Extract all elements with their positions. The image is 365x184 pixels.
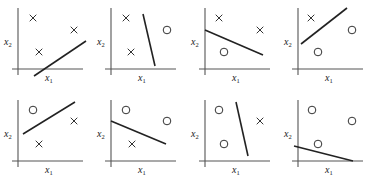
decision-boundary-line	[111, 121, 166, 144]
cross-marker	[308, 15, 315, 22]
panel-4: x1x2	[283, 8, 363, 84]
cross-marker	[257, 27, 264, 34]
x2-label: x2	[96, 128, 105, 140]
x2-label: x2	[96, 36, 105, 48]
circle-marker	[122, 106, 130, 114]
x2-label: x2	[190, 128, 199, 140]
circle-marker	[348, 26, 356, 34]
x2-label: x2	[190, 36, 199, 48]
circle-marker	[308, 106, 316, 114]
x1-label: x1	[44, 164, 53, 176]
circle-marker	[348, 117, 356, 125]
panel-6: x1x2	[96, 100, 176, 176]
circle-marker	[314, 48, 322, 56]
x2-label: x2	[283, 36, 292, 48]
circle-marker	[220, 48, 228, 56]
x1-label: x1	[324, 164, 333, 176]
cross-marker	[257, 118, 264, 125]
circle-marker	[220, 140, 228, 148]
x1-label: x1	[324, 72, 333, 84]
x2-label: x2	[3, 128, 12, 140]
decision-boundary-line	[205, 30, 263, 55]
circle-marker	[314, 140, 322, 148]
panel-1: x1x2	[3, 8, 86, 84]
decision-boundary-line	[34, 41, 86, 76]
x1-label: x1	[231, 164, 240, 176]
decision-boundary-line	[301, 8, 347, 44]
cross-marker	[129, 141, 136, 148]
panel-7: x1x2	[190, 100, 270, 176]
circle-marker	[29, 106, 37, 114]
cross-marker	[71, 118, 78, 125]
panel-3: x1x2	[190, 8, 270, 84]
cross-marker	[128, 49, 135, 56]
decision-boundary-figure: x1x2x1x2x1x2x1x2x1x2x1x2x1x2x1x2	[0, 0, 365, 184]
decision-boundary-line	[294, 146, 353, 161]
circle-marker	[163, 117, 171, 125]
panel-8: x1x2	[283, 100, 363, 176]
x1-label: x1	[137, 164, 146, 176]
panel-2: x1x2	[96, 8, 176, 84]
x2-label: x2	[283, 128, 292, 140]
panel-5: x1x2	[3, 100, 83, 176]
circle-marker	[163, 26, 171, 34]
cross-marker	[123, 15, 130, 22]
circle-marker	[215, 106, 223, 114]
cross-marker	[71, 27, 78, 34]
cross-marker	[36, 141, 43, 148]
x2-label: x2	[3, 36, 12, 48]
decision-boundary-line	[236, 102, 248, 156]
decision-boundary-line	[143, 14, 155, 66]
x1-label: x1	[231, 72, 240, 84]
x1-label: x1	[137, 72, 146, 84]
cross-marker	[216, 15, 223, 22]
cross-marker	[36, 49, 43, 56]
x1-label: x1	[44, 72, 53, 84]
cross-marker	[30, 15, 37, 22]
